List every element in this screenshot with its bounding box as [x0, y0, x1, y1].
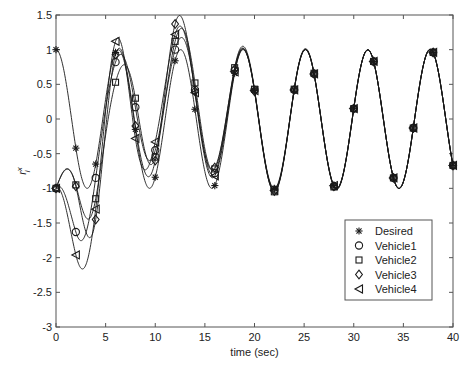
x-tick-label: 20	[248, 331, 260, 343]
asterisk-marker-icon	[92, 160, 99, 167]
line-chart: 1.510.50-0.5-1-1.5-2-2.5-3 0510152025303…	[0, 0, 472, 371]
x-tick-label: 25	[298, 331, 310, 343]
y-axis-label: rxi	[15, 166, 32, 175]
y-tick-label: -0.5	[33, 148, 52, 160]
asterisk-marker-icon	[191, 106, 198, 113]
legend-label: Vehicle4	[375, 283, 417, 295]
y-tick-label: -3	[42, 321, 52, 333]
legend: DesiredVehicle1Vehicle2Vehicle3Vehicle4	[345, 220, 432, 300]
y-tick-label: 0.5	[37, 78, 52, 90]
y-tick-label: -2	[42, 252, 52, 264]
y-tick-label: -1.5	[33, 217, 52, 229]
asterisk-marker-icon	[152, 174, 159, 181]
asterisk-marker-icon	[52, 46, 59, 53]
y-tick-label: 1.5	[37, 9, 52, 21]
legend-label: Vehicle1	[375, 240, 417, 252]
y-tick-label: -1	[42, 182, 52, 194]
y-axis-label-sub: i	[23, 170, 32, 172]
y-tick-label: 1	[46, 44, 52, 56]
x-tick-label: 5	[103, 331, 109, 343]
y-tick-label: 0	[46, 113, 52, 125]
x-tick-label: 0	[53, 331, 59, 343]
x-tick-label: 10	[149, 331, 161, 343]
asterisk-marker-icon	[172, 57, 179, 64]
legend-label: Vehicle2	[375, 254, 417, 266]
asterisk-marker-icon	[211, 182, 218, 189]
asterisk-marker-icon	[72, 145, 79, 152]
legend-label: Vehicle3	[375, 269, 417, 281]
x-tick-label: 40	[447, 331, 459, 343]
y-tick-label: -2.5	[33, 286, 52, 298]
x-tick-label: 35	[397, 331, 409, 343]
x-axis-label: time (sec)	[230, 346, 278, 358]
x-tick-label: 15	[199, 331, 211, 343]
x-tick-label: 30	[348, 331, 360, 343]
legend-label: Desired	[375, 225, 413, 237]
